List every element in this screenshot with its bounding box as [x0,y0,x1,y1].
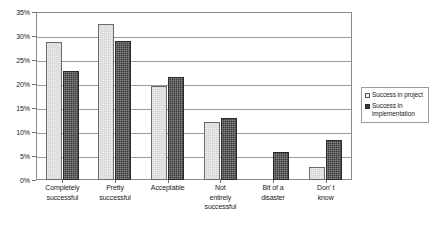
legend-swatch-light-icon [365,93,370,98]
y-axis-tick-label: 15% [16,105,30,112]
bar-success-in-implementation [221,118,237,180]
x-axis-tick-label: Prettysuccessful [89,183,142,202]
bar-chart: 0%5%10%15%20%25%30%35% Completelysuccess… [0,0,433,226]
bar-success-in-project [204,122,220,180]
y-axis-tick-label: 35% [16,9,30,16]
y-axis-tick-label: 30% [16,33,30,40]
x-axis-tick-label: Bit of adisaster [247,183,300,202]
x-axis: CompletelysuccessfulPrettysuccessfulAcce… [36,183,352,226]
bar-group [36,12,89,180]
bar-group [299,12,352,180]
bar-group [194,12,247,180]
bar-group [247,12,300,180]
x-axis-tick-label: Acceptable [141,183,194,193]
legend-item-success-in-project: Success in project [365,91,425,100]
y-axis-tick [32,180,36,181]
legend-item-success-in-implementation: Success in implementation [365,102,425,119]
legend-label: Success in project [372,91,423,100]
bar-success-in-implementation [273,152,289,180]
bar-group [141,12,194,180]
bar-success-in-implementation [115,41,131,180]
chart-legend: Success in project Success in implementa… [361,87,429,123]
y-axis-tick-label: 0% [20,177,30,184]
y-axis: 0%5%10%15%20%25%30%35% [0,0,36,226]
bar-success-in-implementation [168,77,184,180]
legend-label: Success in implementation [372,102,425,119]
y-axis-tick-label: 25% [16,57,30,64]
bars-layer [36,12,352,180]
x-axis-tick-label: Notentirelysuccessful [194,183,247,212]
y-axis-tick-label: 5% [20,153,30,160]
y-axis-tick-label: 10% [16,129,30,136]
legend-swatch-dark-icon [365,104,370,109]
bar-success-in-project [98,24,114,180]
bar-success-in-implementation [326,140,342,180]
bar-success-in-implementation [63,71,79,180]
y-axis-tick-label: 20% [16,81,30,88]
x-axis-tick-label: Don' tknow [299,183,352,202]
x-axis-tick-label: Completelysuccessful [36,183,89,202]
bar-group [89,12,142,180]
bar-success-in-project [151,86,167,180]
bar-success-in-project [46,42,62,180]
bar-success-in-project [309,167,325,180]
